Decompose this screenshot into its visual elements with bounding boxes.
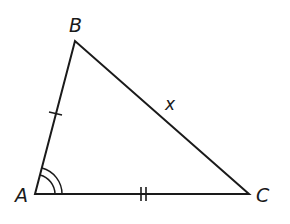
angle-arc-a-outer [42,168,62,194]
triangle-diagram: B A C x [0,0,290,224]
side-label-bc: x [164,94,176,114]
angle-arc-a-inner [40,175,55,194]
vertex-label-a: A [13,184,28,206]
vertex-label-b: B [69,14,82,36]
vertex-label-c: C [256,184,270,206]
triangle-abc [35,41,249,194]
